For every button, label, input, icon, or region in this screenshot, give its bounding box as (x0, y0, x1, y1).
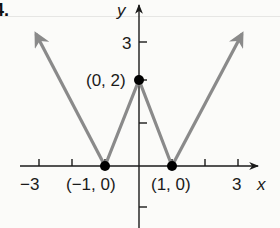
point-label-1-0: (1, 0) (151, 176, 191, 193)
problem-number: 4. (0, 0, 9, 21)
point-label-neg1-0: (−1, 0) (66, 176, 116, 193)
point-label-0-2: (0, 2) (86, 72, 126, 89)
point-1-0 (167, 161, 177, 171)
point-0-2 (134, 75, 144, 85)
y-ticks (139, 42, 147, 207)
x-tick-label-3: 3 (232, 176, 241, 193)
y-axis-label: y (117, 2, 126, 19)
x-tick-label-neg3: −3 (20, 176, 39, 193)
point-neg1-0 (100, 161, 110, 171)
x-axis-label: x (257, 176, 266, 193)
y-tick-label-3: 3 (122, 35, 131, 52)
